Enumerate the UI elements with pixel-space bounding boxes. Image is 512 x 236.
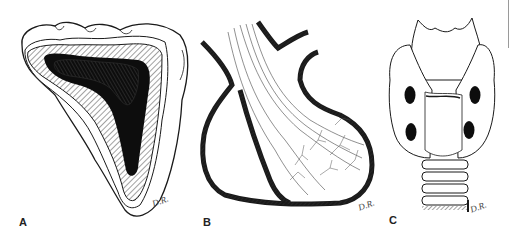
panel-b: D.R. B (190, 0, 375, 236)
vessel-sac-illustration (190, 0, 375, 236)
panel-c: D.R. C (370, 0, 512, 236)
panel-a: D.R. A (0, 0, 200, 236)
thyroid-illustration (370, 0, 512, 236)
panel-label-b: B (203, 216, 211, 228)
panel-label-a: A (19, 216, 27, 228)
page-edge-line (508, 0, 509, 48)
panel-label-c: C (389, 214, 397, 226)
lobe-cross-section-illustration (0, 0, 200, 236)
